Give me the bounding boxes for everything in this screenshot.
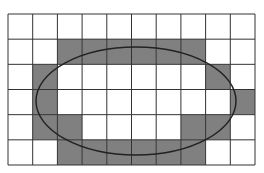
grid-cell-filled xyxy=(206,64,231,89)
grid-cell-empty xyxy=(230,14,255,39)
grid-cell-filled xyxy=(107,140,132,165)
grid-cell-empty xyxy=(107,115,132,140)
grid-cell-filled xyxy=(33,64,58,89)
grid-cell-empty xyxy=(107,14,132,39)
grid-cell-empty xyxy=(132,90,157,115)
grid-cell-empty xyxy=(156,14,181,39)
grid-cell-empty xyxy=(206,39,231,64)
grid-cell-empty xyxy=(8,90,33,115)
grid-cell-empty xyxy=(8,140,33,165)
grid-cell-empty xyxy=(132,115,157,140)
grid-cell-empty xyxy=(82,14,107,39)
grid-cell-empty xyxy=(206,90,231,115)
grid-cell-empty xyxy=(57,14,82,39)
grid-cell-empty xyxy=(132,64,157,89)
grid-cell-empty xyxy=(181,14,206,39)
grid-cell-empty xyxy=(57,90,82,115)
grid-cell-empty xyxy=(8,39,33,64)
grid-cell-empty xyxy=(82,115,107,140)
grid-cell-empty xyxy=(107,64,132,89)
grid-cell-filled xyxy=(57,140,82,165)
grid-cell-empty xyxy=(8,115,33,140)
grid-cell-empty xyxy=(230,115,255,140)
grid-cell-filled xyxy=(181,115,206,140)
grid-cell-empty xyxy=(8,14,33,39)
grid-cell-filled xyxy=(107,39,132,64)
grid-cell-empty xyxy=(230,140,255,165)
grid-cell-empty xyxy=(230,64,255,89)
grid-cell-empty xyxy=(33,14,58,39)
grid-cell-filled xyxy=(206,115,231,140)
grid-cell-empty xyxy=(33,39,58,64)
grid-cell-empty xyxy=(181,90,206,115)
grid-cell-empty xyxy=(82,64,107,89)
grid-cell-empty xyxy=(82,90,107,115)
grid-cell-empty xyxy=(8,64,33,89)
grid-cell-filled xyxy=(132,140,157,165)
grid-cell-empty xyxy=(156,115,181,140)
grid-cell-empty xyxy=(107,90,132,115)
grid-cell-empty xyxy=(206,140,231,165)
grid-cell-empty xyxy=(33,140,58,165)
grid-cell-empty xyxy=(156,64,181,89)
grid-cell-empty xyxy=(230,39,255,64)
grid-cell-empty xyxy=(132,14,157,39)
grid-cell-filled xyxy=(132,39,157,64)
grid-cell-empty xyxy=(206,14,231,39)
grid-cell-empty xyxy=(156,90,181,115)
grid-cell-filled xyxy=(33,115,58,140)
grid-cell-filled xyxy=(181,140,206,165)
ellipse-grid-diagram xyxy=(0,0,264,173)
grid-cell-empty xyxy=(57,64,82,89)
grid-cell-empty xyxy=(181,64,206,89)
